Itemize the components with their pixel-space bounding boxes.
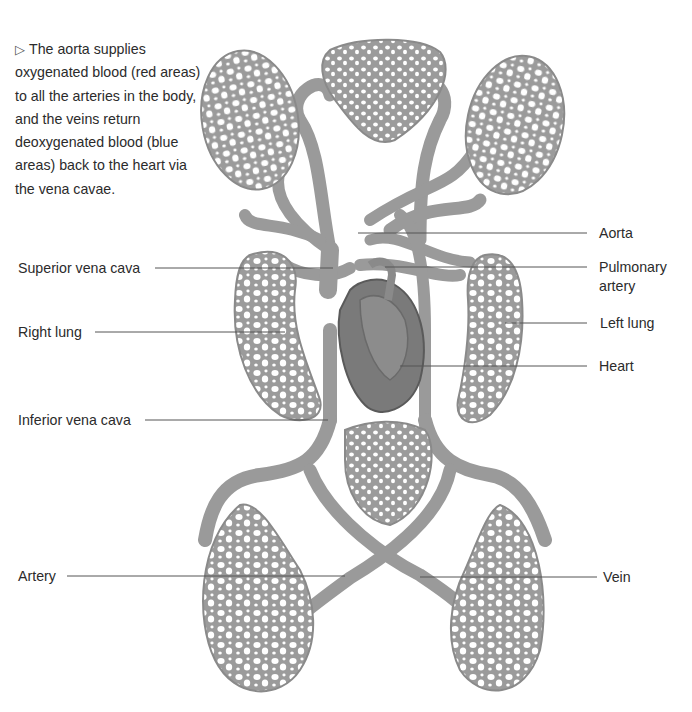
top-left-bed <box>191 43 310 198</box>
center-lower-bed <box>345 422 432 525</box>
label-superior-vena-cava: Superior vena cava <box>18 259 140 277</box>
bottom-left-bed <box>203 505 313 692</box>
label-right-lung: Right lung <box>18 323 82 341</box>
caption-marker-icon: ▷ <box>15 42 25 57</box>
left-lung-bed <box>458 254 523 422</box>
label-left-lung: Left lung <box>600 314 654 332</box>
heart-illustration <box>339 262 424 412</box>
label-heart: Heart <box>599 357 634 375</box>
label-artery: Artery <box>18 567 56 585</box>
top-center-bed <box>322 40 445 142</box>
top-right-bed <box>453 47 576 204</box>
label-pulmonary-artery: Pulmonary artery <box>599 258 679 296</box>
label-inferior-vena-cava: Inferior vena cava <box>18 411 131 429</box>
label-vein: Vein <box>603 568 631 586</box>
bottom-right-bed <box>451 505 544 690</box>
caption: ▷The aorta supplies oxygenated blood (re… <box>15 38 205 201</box>
label-aorta: Aorta <box>599 224 633 242</box>
caption-text: The aorta supplies oxygenated blood (red… <box>15 41 200 197</box>
